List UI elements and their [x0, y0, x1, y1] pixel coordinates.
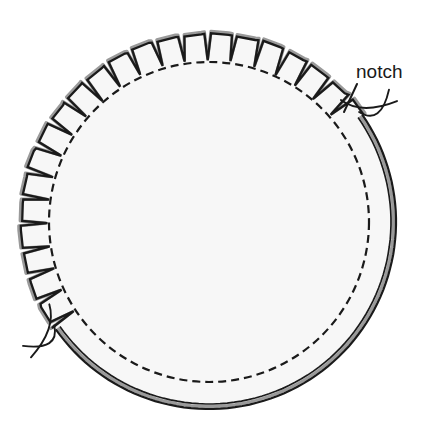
- notch-label: notch: [356, 61, 402, 82]
- figure-canvas: notch: [0, 0, 428, 429]
- notched-disc-diagram: notch: [0, 0, 428, 429]
